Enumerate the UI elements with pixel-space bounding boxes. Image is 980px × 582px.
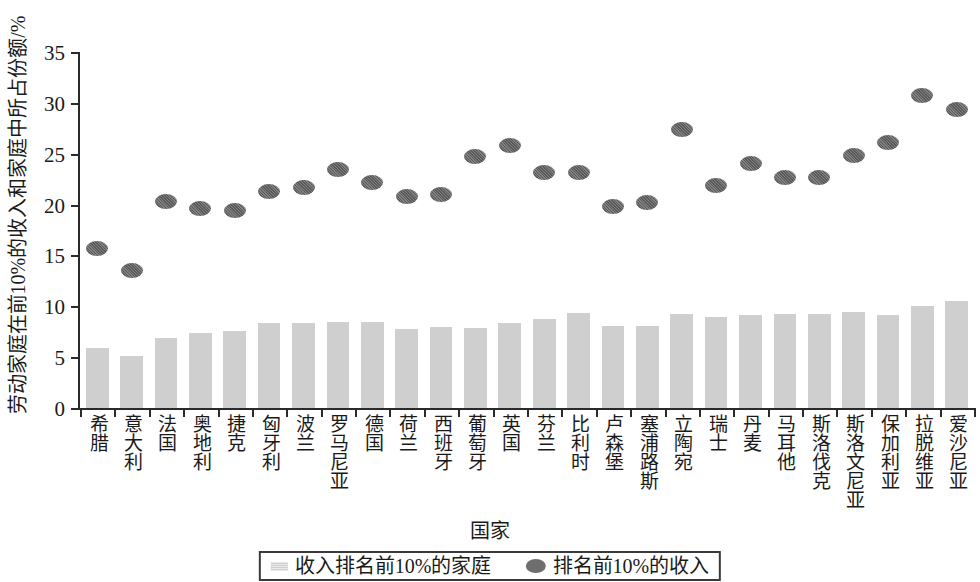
y-axis-tick: 10: [71, 306, 80, 308]
x-axis-category-label: 意大利: [118, 414, 142, 471]
legend-item[interactable]: 排名前10%的收入: [526, 556, 710, 576]
x-axis-category-label: 匈牙利: [255, 414, 279, 471]
data-point-marker: [224, 203, 246, 218]
x-axis-category-label: 捷克: [221, 414, 245, 452]
bar: [945, 301, 968, 408]
bar: [774, 314, 797, 408]
data-point-marker: [293, 180, 315, 195]
x-axis-tick: [974, 408, 976, 417]
y-axis-title-text: 劳动家庭在前10%的收入和家庭中所占份额/%: [2, 16, 31, 415]
y-axis-tick-label: 0: [55, 399, 66, 420]
data-point-marker: [430, 187, 452, 202]
data-point-marker: [705, 178, 727, 193]
bar: [739, 315, 762, 408]
bar: [120, 356, 143, 408]
data-point-marker: [946, 102, 968, 117]
x-axis-category-label: 卢森堡: [599, 414, 623, 471]
data-point-marker: [533, 165, 555, 180]
bar: [430, 327, 453, 408]
bar: [602, 326, 625, 408]
x-axis-category-label: 波兰: [290, 414, 314, 452]
bar: [189, 333, 212, 408]
x-axis-category-label: 斯洛文尼亚: [840, 414, 864, 509]
y-axis-tick: 15: [71, 255, 80, 257]
y-axis-tick-label: 15: [44, 246, 65, 267]
legend-item-label: 排名前10%的收入: [553, 556, 710, 576]
bar: [361, 322, 384, 408]
x-axis-category-label: 德国: [358, 414, 382, 452]
x-axis-category-label: 保加利亚: [874, 414, 898, 490]
data-point-marker: [464, 149, 486, 164]
x-axis-category-label: 拉脱维亚: [908, 414, 932, 490]
data-point-marker: [740, 156, 762, 171]
bar: [327, 322, 350, 408]
bar: [808, 314, 831, 408]
data-point-marker: [877, 135, 899, 150]
data-point-marker: [86, 241, 108, 256]
x-axis-category-label: 芬兰: [530, 414, 554, 452]
data-point-marker: [327, 162, 349, 177]
y-axis-tick: 5: [71, 357, 80, 359]
chart-figure: 劳动家庭在前10%的收入和家庭中所占份额/% 05101520253035 希腊…: [0, 0, 980, 582]
bar: [533, 319, 556, 409]
x-axis-category-label: 塞浦路斯: [633, 414, 657, 490]
y-axis-tick-label: 30: [44, 94, 65, 115]
data-point-marker: [499, 138, 521, 153]
x-axis-tick-labels: 希腊意大利法国奥地利捷克匈牙利波兰罗马尼亚德国荷兰西班牙葡萄牙英国芬兰比利时卢森…: [78, 412, 974, 517]
x-axis-category-label: 丹麦: [737, 414, 761, 452]
bar: [670, 314, 693, 408]
x-axis-category-label: 比利时: [565, 414, 589, 471]
data-point-marker: [121, 263, 143, 278]
x-axis-category-label: 马耳他: [771, 414, 795, 471]
bar: [464, 328, 487, 408]
y-axis-tick-label: 5: [55, 348, 66, 369]
legend-item[interactable]: 收入排名前10%的家庭: [271, 556, 492, 576]
x-axis-category-label: 荷兰: [393, 414, 417, 452]
y-axis-tick-label: 35: [44, 43, 65, 64]
bar: [498, 323, 521, 408]
bar: [705, 317, 728, 408]
x-axis-category-label: 希腊: [83, 414, 107, 452]
bar: [292, 323, 315, 408]
bar: [395, 329, 418, 408]
chart-legend: 收入排名前10%的家庭排名前10%的收入: [259, 551, 721, 581]
dot-swatch-icon: [526, 559, 546, 573]
data-point-marker: [189, 201, 211, 216]
bar: [86, 348, 109, 408]
data-point-marker: [155, 194, 177, 209]
legend-item-label: 收入排名前10%的家庭: [295, 556, 492, 576]
x-axis-category-label: 立陶宛: [668, 414, 692, 471]
y-axis-tick: 20: [71, 205, 80, 207]
data-point-marker: [671, 122, 693, 137]
bar: [877, 315, 900, 408]
y-axis-tick-label: 10: [44, 297, 65, 318]
data-point-marker: [361, 175, 383, 190]
x-axis-category-label: 奥地利: [186, 414, 210, 471]
bar: [842, 312, 865, 408]
y-axis-tick-label: 25: [44, 145, 65, 166]
data-point-marker: [808, 170, 830, 185]
y-axis-tick: 35: [71, 52, 80, 54]
data-point-marker: [911, 88, 933, 103]
y-axis-title: 劳动家庭在前10%的收入和家庭中所占份额/%: [0, 0, 32, 430]
x-axis-category-label: 葡萄牙: [461, 414, 485, 471]
y-axis-tick-label: 20: [44, 195, 65, 216]
x-axis-category-label: 爱沙尼亚: [943, 414, 967, 490]
bar: [155, 338, 178, 408]
bar: [258, 323, 281, 408]
x-axis-category-label: 罗马尼亚: [324, 414, 348, 490]
y-axis-tick: 25: [71, 154, 80, 156]
bar-swatch-icon: [271, 562, 288, 571]
y-axis-tick: 0: [71, 408, 80, 410]
x-axis-category-label: 法国: [152, 414, 176, 452]
data-point-marker: [774, 170, 796, 185]
data-point-marker: [602, 199, 624, 214]
y-axis-tick: 30: [71, 103, 80, 105]
x-axis-category-label: 英国: [496, 414, 520, 452]
x-axis-category-label: 瑞士: [702, 414, 726, 452]
data-point-marker: [843, 148, 865, 163]
data-point-marker: [396, 189, 418, 204]
x-axis-title: 国家: [0, 515, 980, 544]
plot-area: 05101520253035: [78, 52, 974, 410]
data-point-marker: [568, 165, 590, 180]
